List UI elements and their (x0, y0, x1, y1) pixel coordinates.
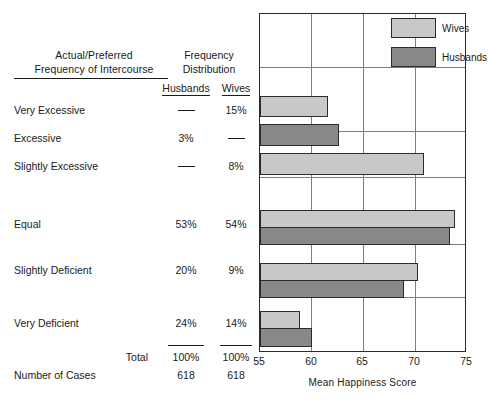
row-value-wives: 9% (214, 264, 258, 276)
table-header-left-rule (14, 78, 168, 79)
bar-equal-husbands (260, 227, 450, 245)
cases-wives: 618 (214, 369, 258, 381)
chart-legend: Wives Husbands (260, 14, 467, 74)
legend-label-wives: Wives (442, 23, 469, 34)
table-row-total: Total 100% 100% (0, 351, 252, 365)
table-header-left-line1: Actual/Preferred (14, 49, 174, 63)
total-husbands: 100% (158, 351, 214, 363)
row-label: Slightly Deficient (14, 264, 92, 276)
row-value-husbands: 3% (158, 132, 214, 144)
bar-equal-wives (260, 210, 455, 228)
bar-very-excessive-wives (260, 96, 328, 117)
table-header-right-line2: Distribution (168, 63, 250, 77)
bar-very-deficient-wives (260, 311, 300, 329)
x-tick-70: 70 (399, 355, 429, 367)
table-header-left: Actual/Preferred Frequency of Intercours… (14, 49, 174, 79)
row-value-husbands: 53% (158, 218, 214, 230)
table-row: Excessive 3% (0, 132, 252, 146)
row-value-wives: 15% (214, 104, 258, 116)
row-value-husbands (158, 160, 214, 172)
total-rule-wives (220, 345, 252, 346)
table-row-cases: Number of Cases 618 618 (0, 369, 252, 383)
table-row: Slightly Excessive 8% (0, 160, 252, 174)
frequency-distribution-table: Actual/Preferred Frequency of Intercours… (0, 0, 252, 409)
column-header-husbands: Husbands (158, 82, 214, 94)
cases-husbands: 618 (158, 369, 214, 381)
row-label: Slightly Excessive (14, 160, 98, 172)
row-label: Excessive (14, 132, 61, 144)
table-row: Very Excessive 15% (0, 104, 252, 118)
row-label: Very Excessive (14, 104, 85, 116)
row-value-wives: 14% (214, 317, 258, 329)
row-value-wives: 54% (214, 218, 258, 230)
legend-swatch-wives (391, 18, 436, 38)
table-row: Slightly Deficient 20% 9% (0, 264, 252, 278)
column-header-wives: Wives (214, 82, 258, 94)
row-label: Very Deficient (14, 317, 79, 329)
row-value-wives: 8% (214, 160, 258, 172)
bar-excessive-husbands (260, 124, 339, 146)
x-axis-title: Mean Happiness Score (259, 377, 466, 388)
row-value-husbands (158, 104, 214, 116)
total-rule-husbands (168, 345, 204, 346)
x-tick-65: 65 (347, 355, 377, 367)
row-value-husbands: 24% (158, 317, 214, 329)
bar-slightly-deficient-wives (260, 263, 418, 281)
table-header-right: Frequency Distribution (168, 49, 250, 76)
table-header-right-line1: Frequency (168, 49, 250, 63)
x-tick-55: 55 (244, 355, 274, 367)
legend-label-husbands: Husbands (442, 52, 487, 63)
bar-slightly-deficient-husbands (260, 280, 404, 298)
cases-label: Number of Cases (14, 369, 96, 381)
x-tick-75: 75 (451, 355, 481, 367)
row-value-husbands: 20% (158, 264, 214, 276)
table-row: Equal 53% 54% (0, 218, 252, 232)
x-tick-60: 60 (296, 355, 326, 367)
row-label: Equal (14, 218, 41, 230)
gridline-row-3 (260, 177, 465, 178)
bar-chart-plot-area: Wives Husbands (259, 13, 466, 352)
total-label: Total (0, 351, 148, 363)
row-value-wives (214, 132, 258, 144)
bar-very-deficient-husbands (260, 328, 312, 347)
legend-swatch-husbands (391, 47, 436, 67)
bar-slightly-excessive-wives (260, 153, 424, 175)
table-row: Very Deficient 24% 14% (0, 317, 252, 331)
table-header-left-line2: Frequency of Intercourse (14, 63, 174, 77)
